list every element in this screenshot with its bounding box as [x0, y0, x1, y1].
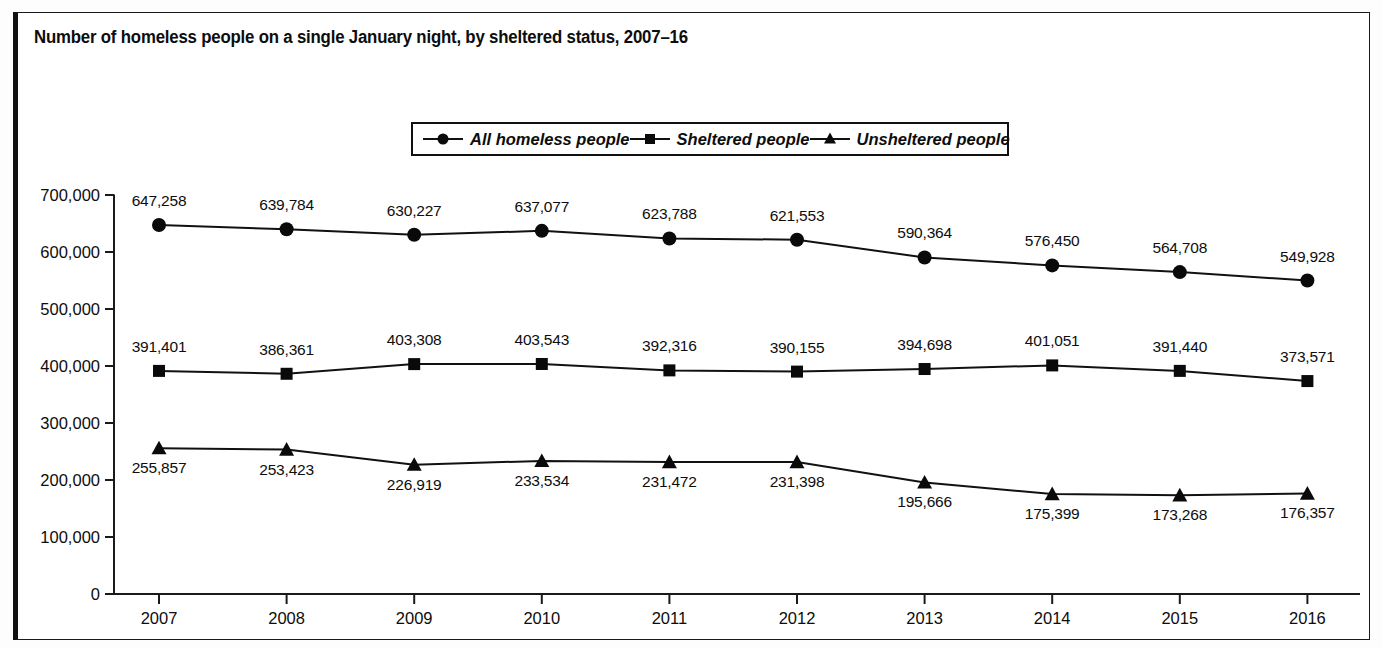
x-axis-tick-label: 2009	[396, 609, 433, 628]
data-point-label: 175,399	[1025, 505, 1080, 523]
data-point-label: 392,316	[642, 337, 697, 355]
data-point-label: 647,258	[132, 192, 187, 210]
circle-marker-icon	[1173, 265, 1187, 279]
data-point-label: 226,919	[387, 476, 442, 494]
x-axis-tick-label: 2011	[652, 609, 687, 628]
data-point-label: 373,571	[1280, 348, 1335, 366]
circle-marker-icon	[1045, 258, 1059, 272]
data-point-label: 253,423	[259, 461, 314, 479]
figure-container: Number of homeless people on a single Ja…	[0, 0, 1383, 648]
data-point-label: 401,051	[1025, 332, 1080, 350]
y-axis-tick-label: 400,000	[40, 357, 100, 376]
x-axis-tick-label: 2012	[779, 609, 816, 628]
data-point-label: 386,361	[259, 341, 314, 359]
y-axis-tick-label: 300,000	[40, 414, 100, 433]
data-point-label: 576,450	[1025, 232, 1080, 250]
circle-marker-icon	[152, 218, 166, 232]
circle-marker-icon	[662, 231, 676, 245]
square-marker-icon	[1301, 375, 1313, 387]
plot-area: 0100,000200,000300,000400,000500,000600,…	[0, 0, 1383, 648]
circle-marker-icon	[535, 224, 549, 238]
x-axis-tick-label: 2016	[1289, 609, 1326, 628]
circle-marker-icon	[1300, 274, 1314, 288]
y-axis-tick-label: 0	[91, 585, 100, 604]
data-point-label: 231,398	[770, 473, 825, 491]
data-point-label: 623,788	[642, 205, 697, 223]
data-point-label: 233,534	[514, 472, 569, 490]
square-marker-icon	[536, 358, 548, 370]
x-axis-tick-label: 2007	[141, 609, 178, 628]
data-point-label: 564,708	[1152, 239, 1207, 257]
y-axis-tick-label: 200,000	[40, 471, 100, 490]
series-line-circle	[159, 225, 1307, 280]
square-marker-icon	[791, 366, 803, 378]
square-marker-icon	[1046, 359, 1058, 371]
chart-svg	[0, 0, 1383, 648]
data-point-label: 391,401	[132, 338, 187, 356]
data-point-label: 195,666	[897, 493, 952, 511]
data-point-label: 403,543	[514, 331, 569, 349]
data-point-label: 630,227	[387, 202, 442, 220]
square-marker-icon	[919, 363, 931, 375]
circle-marker-icon	[918, 250, 932, 264]
series-line-triangle	[159, 448, 1307, 495]
data-point-label: 549,928	[1280, 248, 1335, 266]
y-axis-tick-label: 100,000	[40, 528, 100, 547]
x-axis-tick-label: 2013	[906, 609, 943, 628]
circle-marker-icon	[280, 222, 294, 236]
data-point-label: 621,553	[770, 207, 825, 225]
x-axis-tick-label: 2010	[523, 609, 560, 628]
data-point-label: 639,784	[259, 196, 314, 214]
x-axis-tick-label: 2008	[268, 609, 305, 628]
y-axis-tick-label: 600,000	[40, 243, 100, 262]
series-line-square	[159, 364, 1307, 381]
data-point-label: 403,308	[387, 331, 442, 349]
data-point-label: 637,077	[514, 198, 569, 216]
square-marker-icon	[408, 358, 420, 370]
y-axis-tick-label: 500,000	[40, 300, 100, 319]
data-point-label: 391,440	[1152, 338, 1207, 356]
square-marker-icon	[663, 364, 675, 376]
data-point-label: 173,268	[1152, 506, 1207, 524]
data-point-label: 390,155	[770, 339, 825, 357]
circle-marker-icon	[407, 228, 421, 242]
circle-marker-icon	[790, 233, 804, 247]
x-axis-tick-label: 2015	[1161, 609, 1198, 628]
square-marker-icon	[153, 365, 165, 377]
square-marker-icon	[281, 368, 293, 380]
data-point-label: 231,472	[642, 473, 697, 491]
data-point-label: 176,357	[1280, 504, 1335, 522]
square-marker-icon	[1174, 365, 1186, 377]
data-point-label: 255,857	[132, 459, 187, 477]
y-axis-tick-label: 700,000	[40, 186, 100, 205]
data-point-label: 590,364	[897, 224, 952, 242]
x-axis-tick-label: 2014	[1034, 609, 1071, 628]
data-point-label: 394,698	[897, 336, 952, 354]
